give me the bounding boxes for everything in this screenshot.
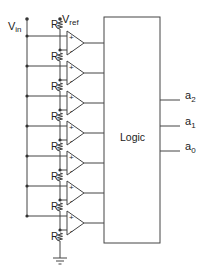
comparator: +- [25,61,104,85]
svg-text:-: - [70,76,73,85]
output-a1: a1 [160,115,196,130]
resistor-icon: R [51,19,63,30]
svg-text:-: - [70,46,73,55]
svg-text:+: + [69,183,74,192]
output-a2: a2 [160,89,196,104]
svg-text:a0: a0 [185,140,196,155]
resistor-label: R [51,201,58,212]
logic-label: Logic [120,131,145,143]
resistor-icon: R [51,141,63,152]
resistor-label: R [51,111,58,122]
logic-block [104,17,160,243]
comparator: +- [25,91,104,115]
vref-terminal [58,17,62,21]
svg-text:-: - [70,166,73,175]
comparator: +- [25,181,104,205]
svg-text:-: - [70,196,73,205]
resistor-label: R [51,171,58,182]
resistor-icon: R [51,111,63,122]
resistor-label: R [51,51,58,62]
vin-label: Vin [8,20,22,34]
svg-text:-: - [70,106,73,115]
svg-text:-: - [70,136,73,145]
comparator: +- [25,151,104,175]
svg-text:+: + [69,93,74,102]
resistor-icon: R [51,81,63,92]
resistor-icon: R [51,231,63,242]
svg-text:+: + [69,63,74,72]
resistor-label: R [51,141,58,152]
resistor-ladder: RRRRRRRR [51,19,63,248]
ground-icon [53,248,67,264]
resistor-label: R [51,81,58,92]
comparator: +- [25,31,104,55]
svg-text:+: + [69,153,74,162]
svg-text:a2: a2 [185,89,196,104]
resistor-label: R [51,19,58,30]
vref-label: Vref [62,13,79,27]
flash-adc-diagram: Vin Vref RRRRRRRR +-+-+-+-+-+-+- Logic a… [0,0,206,274]
svg-text:+: + [69,123,74,132]
svg-text:a1: a1 [185,115,196,130]
output-bits: a2a1a0 [160,89,196,155]
resistor-icon: R [51,201,63,212]
comparator-bank: +-+-+-+-+-+-+- [25,31,104,235]
svg-text:+: + [69,33,74,42]
comparator: +- [25,211,104,235]
svg-text:-: - [70,226,73,235]
resistor-icon: R [51,171,63,182]
resistor-label: R [51,231,58,242]
svg-text:+: + [69,213,74,222]
resistor-icon: R [51,51,63,62]
comparator: +- [25,121,104,145]
output-a0: a0 [160,140,196,155]
